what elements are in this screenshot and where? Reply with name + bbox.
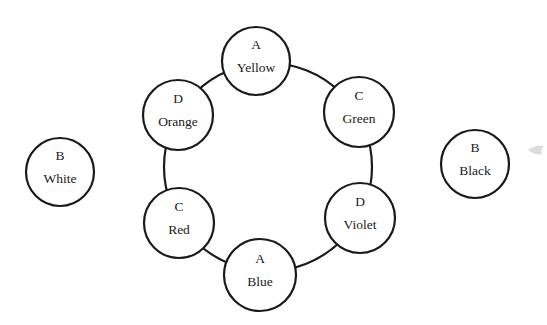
node-group-letter: C [174, 199, 183, 214]
node-color-label: Black [459, 163, 491, 178]
node-black: BBlack [441, 130, 509, 198]
node-color-label: Orange [158, 114, 198, 129]
node-group-letter: B [55, 148, 64, 163]
nodes-group: AYellowCGreenDVioletABlueCRedDOrangeBWhi… [26, 27, 509, 311]
node-color-label: Red [168, 222, 190, 237]
node-group-letter: D [355, 194, 365, 209]
node-color-label: Green [343, 111, 376, 126]
node-group-letter: D [173, 91, 183, 106]
node-color-label: White [44, 171, 77, 186]
color-group-diagram: AYellowCGreenDVioletABlueCRedDOrangeBWhi… [0, 0, 547, 325]
node-white: BWhite [26, 138, 94, 206]
node-group-letter: C [354, 88, 363, 103]
node-green: CGreen [324, 77, 394, 147]
node-blue: ABlue [224, 239, 296, 311]
node-color-label: Blue [247, 274, 273, 289]
node-group-letter: A [255, 251, 265, 266]
node-group-letter: A [251, 37, 261, 52]
node-orange: DOrange [143, 80, 213, 150]
scan-smudge [528, 146, 544, 155]
node-color-label: Yellow [237, 60, 276, 75]
node-group-letter: B [470, 140, 479, 155]
node-red: CRed [144, 188, 214, 258]
node-violet: DViolet [325, 183, 395, 253]
node-yellow: AYellow [222, 27, 290, 95]
node-color-label: Violet [344, 217, 377, 232]
